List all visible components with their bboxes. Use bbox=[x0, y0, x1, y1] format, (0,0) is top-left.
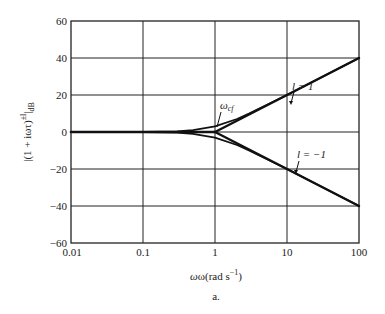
svg-text:−20: −20 bbox=[50, 163, 68, 175]
figure-caption: a. bbox=[212, 290, 220, 302]
svg-text:|(1 + iωτ)±l|dB: |(1 + iωτ)±l|dB bbox=[19, 102, 36, 162]
svg-text:10: 10 bbox=[282, 246, 294, 258]
svg-text:ωcf: ωcf bbox=[220, 99, 235, 113]
svg-text:0.01: 0.01 bbox=[62, 246, 81, 258]
svg-text:l = −1: l = −1 bbox=[297, 148, 326, 160]
svg-text:40: 40 bbox=[56, 52, 68, 64]
svg-text:20: 20 bbox=[56, 89, 68, 101]
x-axis-label: ωω(rad s−1) bbox=[190, 268, 242, 283]
svg-text:−40: −40 bbox=[50, 200, 68, 212]
svg-text:60: 60 bbox=[56, 15, 68, 27]
svg-text:0.1: 0.1 bbox=[136, 246, 150, 258]
bode-plot: 60 40 20 0 −20 −40 −60 0.01 0.1 1 10 100… bbox=[0, 0, 385, 314]
svg-text:0: 0 bbox=[62, 126, 68, 138]
svg-text:1: 1 bbox=[212, 246, 218, 258]
y-tick-labels: 60 40 20 0 −20 −40 −60 bbox=[50, 15, 68, 249]
svg-text:l = 1: l = 1 bbox=[292, 80, 313, 92]
annotation-l-neg: l = −1 bbox=[294, 148, 326, 174]
y-axis-label: |(1 + iωτ)±l|dB bbox=[19, 102, 36, 162]
svg-text:100: 100 bbox=[351, 246, 368, 258]
x-tick-labels: 0.01 0.1 1 10 100 bbox=[62, 246, 367, 258]
